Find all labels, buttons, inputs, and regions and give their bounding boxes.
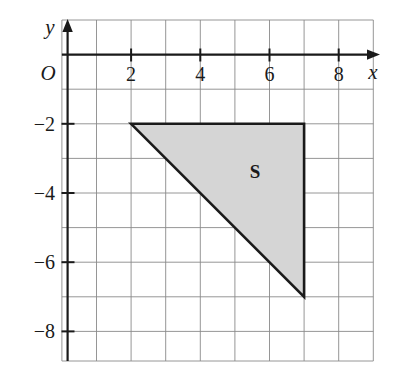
y-axis-label: y	[43, 15, 55, 39]
shape-label-s: S	[250, 161, 261, 182]
y-tick-label: −4	[34, 182, 55, 204]
origin-label: O	[40, 61, 55, 85]
coordinate-grid-figure: 2 4 6 8 −2 −4 −6 −8 O x y S	[0, 0, 398, 369]
y-tick-label: −2	[34, 113, 55, 135]
coordinate-plane-svg: 2 4 6 8 −2 −4 −6 −8 O x y S	[0, 0, 398, 369]
x-tick-label: 8	[334, 63, 344, 85]
x-tick-label: 4	[195, 63, 205, 85]
shape-s-polygon	[131, 124, 304, 297]
x-tick-label: 6	[265, 63, 275, 85]
y-axis-arrow-icon	[62, 19, 72, 32]
x-axis-label: x	[367, 60, 378, 84]
y-tick-labels: −2 −4 −6 −8	[34, 113, 55, 342]
x-tick-label: 2	[126, 63, 136, 85]
y-tick-label: −6	[34, 251, 55, 273]
y-tick-label: −8	[34, 320, 55, 342]
